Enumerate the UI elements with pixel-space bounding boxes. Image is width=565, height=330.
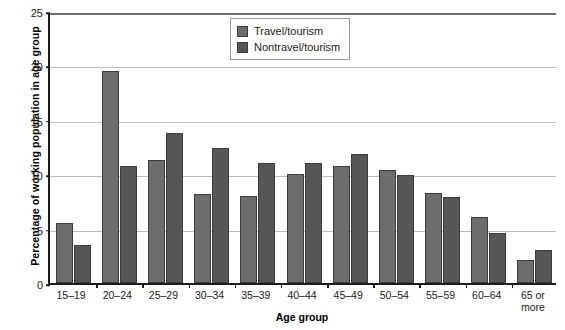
bar-group [471, 13, 506, 283]
x-axis-tick-label: 60–64 [464, 290, 510, 302]
bar-travel-tourism-9 [471, 217, 488, 283]
bar-travel-tourism-4 [240, 196, 257, 283]
x-axis-tick-mark [189, 283, 191, 288]
x-axis-tick-label: 25–29 [140, 290, 186, 302]
chart-legend: Travel/tourism Nontravel/tourism [230, 18, 350, 60]
x-axis-tick-label: 15–19 [48, 290, 94, 302]
bar-group [379, 13, 414, 283]
bar-nontravel-tourism-0 [74, 245, 91, 283]
x-axis-tick-mark [419, 283, 421, 288]
bar-nontravel-tourism-9 [489, 233, 506, 283]
bar-nontravel-tourism-4 [258, 163, 275, 283]
x-axis-tick-label: 65 or more [510, 290, 556, 313]
bar-travel-tourism-7 [379, 170, 396, 283]
bar-group [517, 13, 552, 283]
x-axis-tick-label: 55–59 [417, 290, 463, 302]
legend-label-travel-tourism: Travel/tourism [254, 25, 323, 37]
y-axis-tick-label: 10 [31, 170, 43, 182]
legend-item: Nontravel/tourism [237, 39, 340, 55]
x-axis-tick-mark [235, 283, 237, 288]
bar-nontravel-tourism-6 [351, 154, 368, 283]
x-axis-tick-mark [466, 283, 468, 288]
x-axis-tick-mark [327, 283, 329, 288]
bar-nontravel-tourism-7 [397, 175, 414, 283]
bar-travel-tourism-6 [333, 166, 350, 284]
x-axis-title: Age group [48, 311, 556, 323]
bar-nontravel-tourism-10 [535, 250, 552, 283]
bar-group [148, 13, 183, 283]
bar-group [102, 13, 137, 283]
bar-nontravel-tourism-1 [120, 166, 137, 284]
y-axis-tick-label: 15 [31, 116, 43, 128]
legend-swatch-nontravel-tourism [237, 42, 248, 53]
y-axis-tick-label: 25 [31, 7, 43, 19]
bar-travel-tourism-2 [148, 160, 165, 283]
x-axis-tick-mark [281, 283, 283, 288]
bar-chart: Percentage of working population in age … [0, 0, 565, 330]
x-axis-tick-mark [96, 283, 98, 288]
bar-travel-tourism-0 [56, 223, 73, 283]
bar-nontravel-tourism-5 [305, 163, 322, 283]
y-axis-tick-mark [46, 284, 50, 286]
y-axis-tick-label: 5 [37, 225, 43, 237]
bar-travel-tourism-5 [287, 174, 304, 283]
bar-group [56, 13, 91, 283]
bar-travel-tourism-8 [425, 193, 442, 283]
x-axis-tick-mark [373, 283, 375, 288]
bar-group [425, 13, 460, 283]
x-axis-tick-label: 30–34 [187, 290, 233, 302]
x-axis-tick-label: 40–44 [279, 290, 325, 302]
x-axis-tick-label: 20–24 [94, 290, 140, 302]
y-axis-tick-label: 0 [37, 279, 43, 291]
x-axis-tick-mark [512, 283, 514, 288]
bar-travel-tourism-3 [194, 194, 211, 283]
x-axis-tick-label: 45–49 [325, 290, 371, 302]
bar-nontravel-tourism-8 [443, 197, 460, 283]
bar-group [194, 13, 229, 283]
x-axis-tick-label: 50–54 [371, 290, 417, 302]
legend-item: Travel/tourism [237, 23, 340, 39]
legend-label-nontravel-tourism: Nontravel/tourism [254, 41, 340, 53]
bar-travel-tourism-1 [102, 71, 119, 283]
y-axis-tick-label: 20 [31, 61, 43, 73]
x-axis-tick-label: 35–39 [233, 290, 279, 302]
y-axis-title: Percentage of working population in age … [29, 6, 41, 286]
legend-swatch-travel-tourism [237, 26, 248, 37]
bar-nontravel-tourism-2 [166, 133, 183, 283]
bar-travel-tourism-10 [517, 260, 534, 283]
x-axis-tick-mark [142, 283, 144, 288]
bar-nontravel-tourism-3 [212, 148, 229, 283]
